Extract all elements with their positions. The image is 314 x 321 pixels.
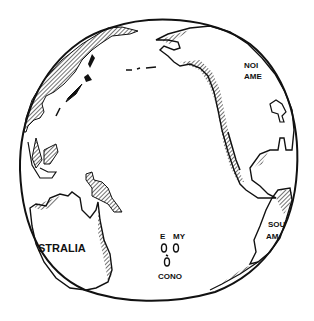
new-guinea [86,172,122,212]
pacific-islands: E MY CONO [158,232,186,281]
asia-landmass [24,27,138,178]
south-america: SOU AM [210,188,292,290]
island-label-my: MY [173,232,186,241]
island-label-cono: CONO [158,272,182,281]
north-america: NOI AME [156,26,294,198]
philippines [44,144,58,164]
north-america-label-line2: AME [244,72,262,81]
island-label-e: E [160,232,166,241]
globe-illustration: STRALIA NOI AME SOU AM E MY CONO [0,0,314,321]
south-america-label-line2: AM [266,232,279,241]
south-america-label-line1: SOU [268,220,286,229]
north-america-label-line1: NOI [244,61,258,70]
australia-label: STRALIA [38,242,86,254]
